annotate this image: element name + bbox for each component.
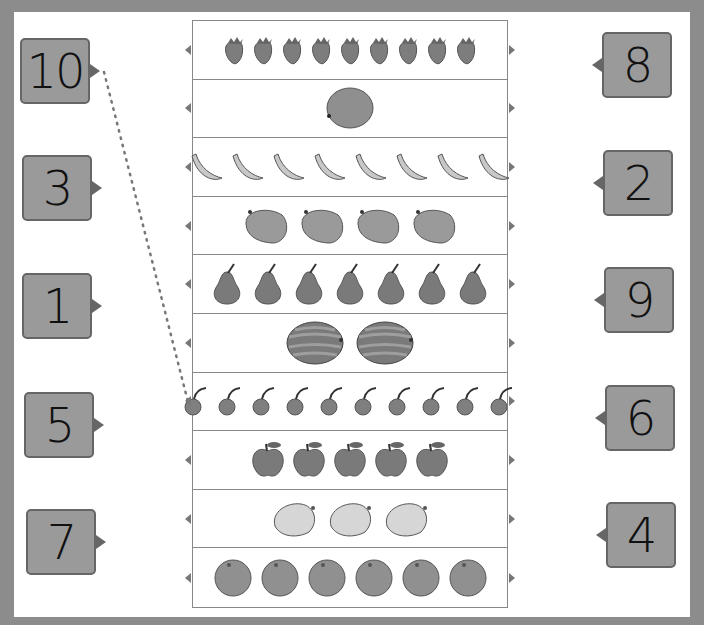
lemon-icon bbox=[269, 500, 319, 538]
row-right-pointer-icon[interactable] bbox=[509, 162, 515, 172]
watermelon-icon bbox=[355, 320, 415, 366]
strawberry-icon bbox=[397, 35, 419, 65]
row-right-pointer-icon[interactable] bbox=[509, 103, 515, 113]
banana-icon bbox=[436, 150, 470, 184]
apple-icon bbox=[332, 441, 368, 479]
banana-icon bbox=[272, 150, 306, 184]
pear-icon bbox=[414, 262, 450, 306]
strawberry-icon bbox=[368, 35, 390, 65]
fruit-row-melon[interactable] bbox=[193, 80, 507, 139]
row-right-pointer-icon[interactable] bbox=[509, 396, 515, 406]
strawberry-icon bbox=[310, 35, 332, 65]
apple-icon bbox=[291, 441, 327, 479]
orange-icon bbox=[260, 558, 300, 598]
row-left-pointer-icon[interactable] bbox=[185, 455, 191, 465]
lemon-icon bbox=[325, 500, 375, 538]
banana-icon bbox=[395, 150, 429, 184]
fruit-row-mango[interactable] bbox=[193, 197, 507, 256]
strawberry-icon bbox=[426, 35, 448, 65]
orange-icon bbox=[354, 558, 394, 598]
watermelon-icon bbox=[285, 320, 345, 366]
mango-icon bbox=[410, 205, 458, 247]
cherry-icon bbox=[388, 386, 414, 416]
row-left-pointer-icon[interactable] bbox=[185, 45, 191, 55]
row-left-pointer-icon[interactable] bbox=[185, 162, 191, 172]
pear-icon bbox=[250, 262, 286, 306]
fruit-row-orange[interactable] bbox=[193, 548, 507, 607]
banana-icon bbox=[231, 150, 265, 184]
strawberry-icon bbox=[252, 35, 274, 65]
strawberry-icon bbox=[455, 35, 477, 65]
row-left-pointer-icon[interactable] bbox=[185, 103, 191, 113]
row-left-pointer-icon[interactable] bbox=[185, 338, 191, 348]
fruit-table bbox=[192, 20, 508, 608]
cherry-icon bbox=[218, 386, 244, 416]
fruit-row-apple[interactable] bbox=[193, 431, 507, 490]
strawberry-icon bbox=[223, 35, 245, 65]
fruit-row-banana[interactable] bbox=[193, 138, 507, 197]
pear-icon bbox=[209, 262, 245, 306]
row-left-pointer-icon[interactable] bbox=[185, 279, 191, 289]
banana-icon bbox=[477, 150, 511, 184]
cherry-icon bbox=[354, 386, 380, 416]
apple-icon bbox=[373, 441, 409, 479]
apple-icon bbox=[250, 441, 286, 479]
orange-icon bbox=[213, 558, 253, 598]
pear-icon bbox=[373, 262, 409, 306]
orange-icon bbox=[448, 558, 488, 598]
row-right-pointer-icon[interactable] bbox=[509, 221, 515, 231]
pear-icon bbox=[291, 262, 327, 306]
banana-icon bbox=[313, 150, 347, 184]
row-right-pointer-icon[interactable] bbox=[509, 514, 515, 524]
melon-icon bbox=[325, 86, 375, 130]
fruit-row-cherry[interactable] bbox=[193, 373, 507, 432]
orange-icon bbox=[307, 558, 347, 598]
row-right-pointer-icon[interactable] bbox=[509, 573, 515, 583]
pear-icon bbox=[455, 262, 491, 306]
strawberry-icon bbox=[281, 35, 303, 65]
cherry-icon bbox=[422, 386, 448, 416]
banana-icon bbox=[190, 150, 224, 184]
row-left-pointer-icon[interactable] bbox=[185, 573, 191, 583]
row-left-pointer-icon[interactable] bbox=[185, 514, 191, 524]
mango-icon bbox=[354, 205, 402, 247]
fruit-row-watermelon[interactable] bbox=[193, 314, 507, 373]
apple-icon bbox=[414, 441, 450, 479]
row-right-pointer-icon[interactable] bbox=[509, 338, 515, 348]
mango-icon bbox=[242, 205, 290, 247]
mango-icon bbox=[298, 205, 346, 247]
orange-icon bbox=[401, 558, 441, 598]
fruit-row-strawberry[interactable] bbox=[193, 21, 507, 80]
banana-icon bbox=[354, 150, 388, 184]
lemon-icon bbox=[381, 500, 431, 538]
row-right-pointer-icon[interactable] bbox=[509, 455, 515, 465]
strawberry-icon bbox=[339, 35, 361, 65]
row-right-pointer-icon[interactable] bbox=[509, 45, 515, 55]
row-left-pointer-icon[interactable] bbox=[185, 396, 191, 406]
cherry-icon bbox=[252, 386, 278, 416]
row-right-pointer-icon[interactable] bbox=[509, 279, 515, 289]
pear-icon bbox=[332, 262, 368, 306]
cherry-icon bbox=[320, 386, 346, 416]
row-left-pointer-icon[interactable] bbox=[185, 221, 191, 231]
fruit-row-pear[interactable] bbox=[193, 255, 507, 314]
cherry-icon bbox=[286, 386, 312, 416]
fruit-row-lemon[interactable] bbox=[193, 490, 507, 549]
cherry-icon bbox=[456, 386, 482, 416]
